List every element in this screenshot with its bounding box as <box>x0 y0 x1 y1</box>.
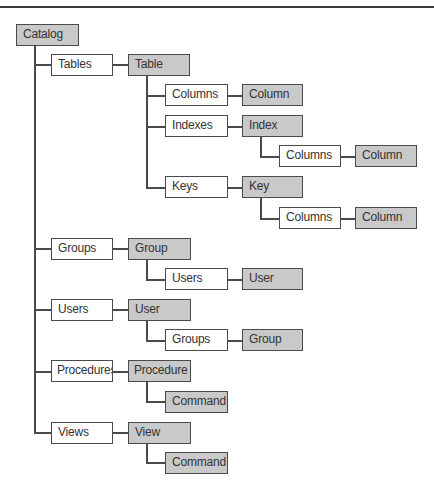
connector <box>146 126 166 128</box>
connector <box>146 76 148 188</box>
node-group-users: Users <box>165 268 228 290</box>
connector <box>228 187 243 189</box>
node-procedure: Procedure <box>128 360 191 382</box>
connector <box>146 95 166 97</box>
connector <box>34 64 52 66</box>
connector <box>341 218 356 220</box>
connector <box>228 95 243 97</box>
connector-trunk <box>34 45 36 433</box>
node-user-group: Group <box>242 329 303 351</box>
node-index-columns: Columns <box>279 145 341 167</box>
connector <box>146 321 148 341</box>
node-group: Group <box>128 238 191 260</box>
connector <box>341 156 356 158</box>
node-view-command: Command <box>165 452 228 474</box>
connector <box>228 126 243 128</box>
node-catalog: Catalog <box>16 24 79 46</box>
node-indexes: Indexes <box>165 115 228 137</box>
connector <box>260 198 262 219</box>
node-user: User <box>128 299 191 321</box>
connector <box>260 156 280 158</box>
connector <box>34 309 52 311</box>
connector <box>146 401 166 403</box>
top-rule <box>0 6 434 8</box>
connector <box>34 432 52 434</box>
connector <box>260 218 280 220</box>
connector <box>113 371 129 373</box>
connector <box>146 279 166 281</box>
connector <box>146 462 166 464</box>
node-key-columns: Columns <box>279 207 341 229</box>
node-table-column: Column <box>242 84 303 106</box>
node-tables: Tables <box>51 54 113 76</box>
connector <box>228 340 243 342</box>
connector <box>34 371 52 373</box>
node-table: Table <box>128 54 190 76</box>
connector <box>146 187 166 189</box>
connector <box>113 248 129 250</box>
connector <box>113 432 129 434</box>
connector <box>146 382 148 402</box>
node-users: Users <box>51 299 113 321</box>
connector <box>113 309 129 311</box>
connector <box>113 64 129 66</box>
connector <box>146 444 148 463</box>
connector <box>260 137 262 157</box>
node-group-user: User <box>242 268 303 290</box>
connector <box>228 279 243 281</box>
connector <box>146 340 166 342</box>
node-user-groups: Groups <box>165 329 228 351</box>
node-keys: Keys <box>165 176 228 198</box>
node-procedures: Procedures <box>51 360 113 382</box>
node-index: Index <box>242 115 303 137</box>
node-groups: Groups <box>51 238 113 260</box>
node-table-columns: Columns <box>165 84 228 106</box>
node-view: View <box>128 422 191 444</box>
node-views: Views <box>51 422 113 444</box>
node-procedure-command: Command <box>165 391 228 413</box>
node-key-column: Column <box>355 207 417 229</box>
connector <box>34 248 52 250</box>
connector <box>146 260 148 280</box>
node-key: Key <box>242 176 303 198</box>
node-index-column: Column <box>355 145 417 167</box>
